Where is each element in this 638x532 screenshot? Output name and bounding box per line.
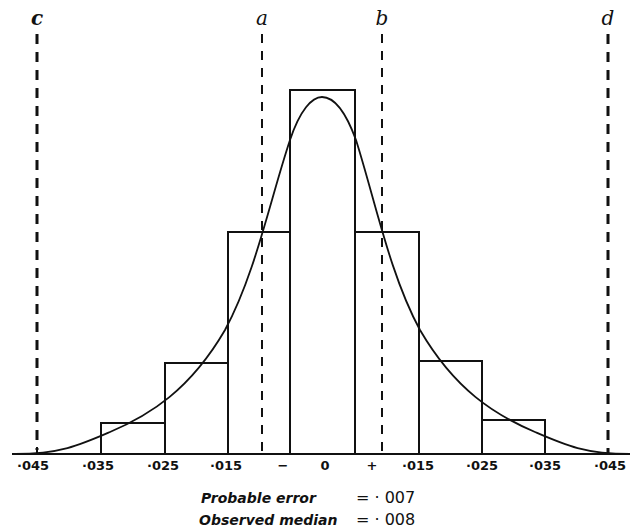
bar-pos-025: [419, 361, 482, 454]
bar-pos-035: [482, 420, 545, 454]
tick-label: ·045: [17, 458, 49, 473]
bar-neg-035: [101, 423, 165, 454]
bar-center: [290, 90, 355, 454]
observed-median-label: Observed median: [199, 512, 338, 528]
label-a: a: [256, 6, 268, 30]
label-d: d: [602, 6, 615, 30]
tick-label: 0: [320, 458, 329, 473]
tick-label: ·035: [529, 458, 561, 473]
bar-neg-025: [165, 363, 228, 454]
normal-curve: [15, 97, 630, 454]
tick-label: ·025: [466, 458, 498, 473]
probable-error-value: = · 007: [356, 488, 415, 507]
tick-label: ·015: [210, 458, 242, 473]
bar-neg-015: [228, 232, 290, 454]
tick-label: ·025: [147, 458, 179, 473]
bar-pos-015: [355, 232, 419, 454]
label-b: b: [376, 6, 389, 30]
tick-label: ·035: [82, 458, 114, 473]
tick-label: +: [367, 458, 378, 473]
probable-error-label: Probable error: [201, 490, 316, 506]
tick-label: ·045: [594, 458, 626, 473]
label-c: c: [31, 6, 43, 30]
tick-label: −: [278, 458, 289, 473]
tick-label: ·015: [402, 458, 434, 473]
observed-median-value: = · 008: [356, 510, 415, 529]
histogram-chart: [0, 0, 638, 532]
